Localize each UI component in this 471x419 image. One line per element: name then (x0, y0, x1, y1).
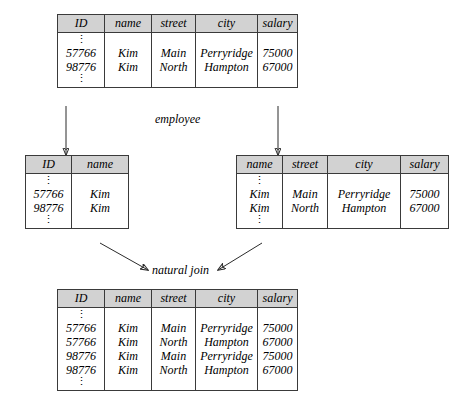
col-header-street: street (152, 15, 196, 33)
col-header-city: city (328, 156, 401, 174)
table-row: ⋮ 57766 57766 98776 98776 ⋮ Kim Kim Kim (58, 308, 298, 391)
arrow-left-projection-to-join (100, 243, 148, 270)
cell-value: 75000 (410, 187, 440, 201)
cell-value: Perryridge (200, 349, 253, 363)
ellipsis-top: ⋮ (43, 176, 54, 187)
spacer (127, 35, 130, 46)
cell-value: Perryridge (200, 321, 253, 335)
ellipsis-bottom: ⋮ (76, 377, 87, 388)
cell-value: 57766 (34, 187, 64, 201)
cell-value: North (159, 335, 187, 349)
cell-value: Kim (118, 46, 138, 60)
cell-value: 57766 (66, 321, 96, 335)
cell-value: Kim (90, 187, 110, 201)
ellipsis-top: ⋮ (76, 310, 87, 321)
spacer (127, 74, 130, 85)
arrow-right-projection-to-join (218, 243, 262, 270)
table-projection-left: ID name ⋮ 57766 98776 ⋮ Kim (25, 155, 129, 229)
spacer (172, 74, 175, 85)
spacer (225, 310, 228, 321)
cell-name-column: Kim Kim Kim Kim (105, 308, 152, 391)
cell-name-column: ⋮ Kim Kim ⋮ (237, 174, 283, 229)
spacer (172, 35, 175, 46)
label-employee: employee (155, 112, 200, 127)
cell-street-column: Main North (283, 174, 328, 229)
cell-id-column: ⋮ 57766 98776 ⋮ (58, 33, 105, 88)
col-header-street: street (283, 156, 328, 174)
col-header-salary: salary (258, 290, 298, 308)
cell-name-column: Kim Kim (72, 174, 129, 229)
table-row: ⋮ 57766 98776 ⋮ Kim Kim (58, 33, 298, 88)
spacer (127, 377, 130, 388)
table-employee-header-row: ID name street city salary (58, 15, 298, 33)
spacer (172, 377, 175, 388)
spacer (363, 215, 366, 226)
spacer (276, 310, 279, 321)
col-header-id: ID (26, 156, 72, 174)
spacer (99, 176, 102, 187)
table-join-result: ID name street city salary ⋮ 57766 57766… (57, 289, 298, 391)
cell-street-column: Main North Main North (152, 308, 196, 391)
ellipsis-top: ⋮ (76, 35, 87, 46)
spacer (99, 215, 102, 226)
spacer (276, 35, 279, 46)
col-header-salary: salary (258, 15, 298, 33)
spacer (127, 310, 130, 321)
ellipsis-top: ⋮ (254, 176, 265, 187)
table-row: ⋮ Kim Kim ⋮ Main North (237, 174, 449, 229)
cell-value: Kim (118, 349, 138, 363)
cell-salary-column: 75000 67000 (258, 33, 298, 88)
col-header-city: city (196, 15, 258, 33)
cell-street-column: Main North (152, 33, 196, 88)
cell-city-column: Perryridge Hampton (328, 174, 401, 229)
cell-value: Hampton (204, 335, 249, 349)
cell-value: 75000 (263, 349, 293, 363)
cell-name-column: Kim Kim (105, 33, 152, 88)
cell-value: 75000 (263, 46, 293, 60)
col-header-street: street (152, 290, 196, 308)
table-row: ⋮ 57766 98776 ⋮ Kim Kim (26, 174, 129, 229)
spacer (225, 74, 228, 85)
spacer (423, 176, 426, 187)
spacer (172, 310, 175, 321)
cell-value: Main (292, 187, 317, 201)
col-header-city: city (196, 290, 258, 308)
cell-value: 57766 (66, 46, 96, 60)
ellipsis-bottom: ⋮ (76, 74, 87, 85)
spacer (304, 176, 307, 187)
ellipsis-bottom: ⋮ (43, 215, 54, 226)
spacer (423, 215, 426, 226)
col-header-salary: salary (401, 156, 449, 174)
cell-value: 57766 (66, 335, 96, 349)
col-header-id: ID (58, 290, 105, 308)
cell-value: 67000 (263, 335, 293, 349)
col-header-name: name (105, 15, 152, 33)
table-projection-left-header-row: ID name (26, 156, 129, 174)
spacer (276, 377, 279, 388)
spacer (363, 176, 366, 187)
table-join-result-header-row: ID name street city salary (58, 290, 298, 308)
col-header-id: ID (58, 15, 105, 33)
cell-value: Kim (249, 187, 269, 201)
cell-value: Perryridge (200, 46, 253, 60)
col-header-name: name (237, 156, 283, 174)
cell-salary-column: 75000 67000 75000 67000 (258, 308, 298, 391)
table-projection-right-header-row: name street city salary (237, 156, 449, 174)
label-natural-join: natural join (152, 263, 209, 278)
ellipsis-bottom: ⋮ (254, 215, 265, 226)
cell-value: Main (161, 46, 186, 60)
cell-value: Main (161, 321, 186, 335)
table-projection-right: name street city salary ⋮ Kim Kim ⋮ (236, 155, 449, 229)
cell-value: 75000 (263, 321, 293, 335)
col-header-name: name (72, 156, 129, 174)
cell-value: Perryridge (338, 187, 391, 201)
cell-id-column: ⋮ 57766 57766 98776 98776 ⋮ (58, 308, 105, 391)
cell-salary-column: 75000 67000 (401, 174, 449, 229)
spacer (276, 74, 279, 85)
diagram-canvas: ID name street city salary ⋮ 57766 98776… (0, 0, 471, 419)
cell-value: 98776 (66, 349, 96, 363)
col-header-name: name (105, 290, 152, 308)
spacer (225, 35, 228, 46)
cell-city-column: Perryridge Hampton (196, 33, 258, 88)
cell-id-column: ⋮ 57766 98776 ⋮ (26, 174, 72, 229)
